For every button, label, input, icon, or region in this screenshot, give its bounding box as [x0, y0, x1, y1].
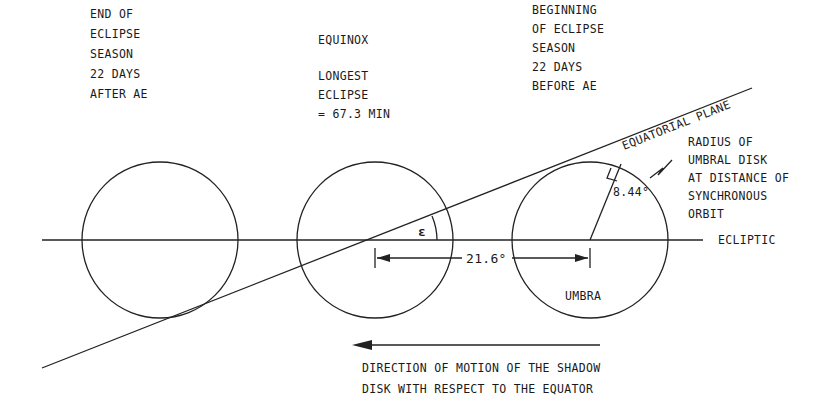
beginning-of-season-label: BEGINNING OF ECLIPSE SEASON 22 DAYS BEFO…: [532, 3, 604, 93]
radius-value-label: 8.44°: [613, 185, 649, 199]
beginning-of-season-line: 22 DAYS: [532, 60, 583, 74]
separation-label: 21.6°: [466, 251, 507, 266]
end-of-season-line: SEASON: [90, 47, 133, 61]
epsilon-angle-arc: [432, 216, 437, 240]
beginning-of-season-line: BEFORE AE: [532, 79, 597, 93]
dimension-arrowhead-left: [377, 254, 390, 262]
eclipse-geometry-diagram: ECLIPTIC EQUATORIAL PLANE ε 8.44° 21.6° …: [0, 0, 827, 416]
motion-arrowhead: [352, 340, 372, 350]
motion-note: DIRECTION OF MOTION OF THE SHADOW DISK W…: [362, 361, 600, 396]
epsilon-label: ε: [418, 224, 426, 239]
equinox-line: = 67.3 MIN: [318, 107, 390, 121]
beginning-of-season-line: OF ECLIPSE: [532, 22, 604, 36]
radius-note-line: AT DISTANCE OF: [688, 171, 789, 185]
radius-note-line: UMBRAL DISK: [688, 153, 767, 167]
ecliptic-label: ECLIPTIC: [718, 233, 776, 247]
equinox-line: ECLIPSE: [318, 88, 369, 102]
end-of-season-line: ECLIPSE: [90, 27, 141, 41]
dimension-arrowhead-right: [575, 254, 588, 262]
radius-note: RADIUS OF UMBRAL DISK AT DISTANCE OF SYN…: [688, 135, 789, 221]
end-of-season-line: END OF: [90, 7, 133, 21]
radius-note-line: ORBIT: [688, 207, 724, 221]
motion-note-line: DIRECTION OF MOTION OF THE SHADOW: [362, 361, 600, 375]
equinox-line: LONGEST: [318, 69, 369, 83]
end-of-season-line: AFTER AE: [90, 87, 148, 101]
beginning-of-season-line: SEASON: [532, 41, 575, 55]
umbral-radius-line: [590, 164, 621, 240]
beginning-of-season-line: BEGINNING: [532, 3, 597, 17]
umbra-label: UMBRA: [565, 289, 601, 303]
radius-note-line: SYNCHRONOUS: [688, 189, 767, 203]
end-of-season-line: 22 DAYS: [90, 67, 141, 81]
equinox-label: EQUINOX LONGEST ECLIPSE = 67.3 MIN: [318, 33, 390, 121]
motion-note-line: DISK WITH RESPECT TO THE EQUATOR: [362, 382, 593, 396]
equinox-line: EQUINOX: [318, 33, 369, 47]
radius-note-line: RADIUS OF: [688, 135, 753, 149]
end-of-season-label: END OF ECLIPSE SEASON 22 DAYS AFTER AE: [90, 7, 148, 101]
radius-note-leader: [650, 160, 672, 178]
